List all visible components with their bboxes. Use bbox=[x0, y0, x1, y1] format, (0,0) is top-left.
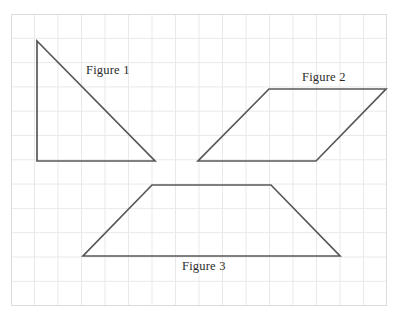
shape-figure-1 bbox=[37, 41, 155, 161]
shape-figure-3 bbox=[83, 185, 340, 256]
figure-1-label: Figure 1 bbox=[86, 64, 130, 77]
worksheet-canvas: Figure 1 Figure 2 Figure 3 bbox=[0, 0, 398, 321]
figure-2-label: Figure 2 bbox=[302, 71, 346, 84]
figure-3-label: Figure 3 bbox=[182, 260, 226, 273]
shape-figure-2 bbox=[198, 89, 386, 161]
